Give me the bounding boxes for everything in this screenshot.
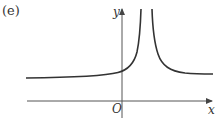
curve-left-branch [26, 9, 141, 78]
x-axis-label: x [208, 103, 215, 117]
panel-label: (e) [2, 3, 20, 18]
curve-right-branch [152, 9, 213, 74]
y-axis-label: y [112, 5, 120, 19]
origin-label: O [112, 102, 122, 116]
graph-figure: (e) x y O [0, 0, 219, 125]
